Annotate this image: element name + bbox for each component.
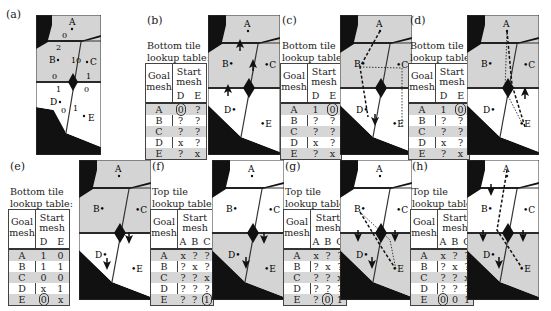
table-row: C ?? [409,126,469,137]
panel-label-d: (d) [410,14,426,27]
table-header: Goalmesh Startmesh DE [409,64,469,104]
svg-text:•E: •E [260,119,272,129]
svg-text:1: 1 [56,85,61,94]
table-row: A 10 [281,104,341,115]
panel-label-c: (c) [282,14,297,27]
tile-map-f: A B• •C D• •E [212,160,284,304]
table-row: A 10 [9,250,69,261]
svg-text:•E: •E [264,264,276,274]
table-row: D ??? [411,283,473,294]
svg-text:B•: B• [93,204,105,214]
table-caption-e: Bottom tilelookup table: [10,186,73,210]
mesh-label-A: A [68,17,76,27]
svg-text:•C: •C [396,205,408,215]
svg-text:•C: •C [268,205,280,215]
table-row: E ??1 [151,294,213,305]
table-row: E ?x [409,148,469,159]
svg-text:A: A [502,19,510,29]
lookup-table-h: Goalmesh Startmesh ABC A x?? B ?x? C ??x… [410,209,474,306]
tile-map-b: A B• •C D• •E [208,15,280,159]
table-row: B ?? [146,115,206,126]
table-caption-g: Top tilelookup table: [285,186,348,210]
svg-text:C: C [90,57,97,67]
table-row: A 10 [409,104,469,115]
svg-text:•C: •C [135,205,147,215]
svg-text:•E: •E [392,264,404,274]
table-row: D x? [281,137,341,148]
table-row: D ??? [151,283,213,294]
tile-map-d: A B• •C D• •E [467,15,539,159]
table-row: B ?x? [411,261,473,272]
table-row: B ?x? [284,261,346,272]
table-row: A x?? [411,250,473,261]
table-caption-h: Top tilelookup table: [412,186,475,210]
table-row: C ?? [281,126,341,137]
svg-text:1: 1 [73,104,78,113]
tile-map-a: A 0 2 B 10 C 0 1 1 0 D 0 1 E [36,15,101,155]
table-row: A x?? [284,250,346,261]
table-row: E 001 [411,294,473,305]
svg-text:•E: •E [519,264,531,274]
table-caption-b: Bottom tilelookup table: [147,40,210,64]
table-row: B ?? [281,115,341,126]
svg-text:A: A [375,19,383,29]
table-row: C ??x [151,272,213,283]
table-row: D x? [146,137,206,148]
svg-text:E: E [88,113,95,123]
tile-map-g: A B• •C D• •E [340,160,412,304]
tile-map-c: A B• •C D• •E [340,15,412,159]
table-header: Goalmesh Startmesh ABC [151,210,213,250]
table-row: B 11 [9,261,69,272]
svg-text:D•: D• [356,250,369,260]
svg-text:B•: B• [226,204,238,214]
svg-text:D•: D• [228,250,241,260]
panel-label-a: (a) [6,8,21,21]
table-header: Goalmesh Startmesh DE [9,210,69,250]
svg-text:A: A [247,164,255,174]
lookup-table-b: Goalmesh Startmesh DE A 0? B ?? C ?? D x… [145,63,207,160]
panel-label-g: (g) [285,160,301,173]
lookup-table-f: Goalmesh Startmesh ABC A x?? B ?x? C ??x… [150,209,214,306]
table-header: Goalmesh Startmesh DE [281,64,341,104]
table-header: Goalmesh Startmesh ABC [284,210,346,250]
svg-text:B•: B• [481,204,493,214]
table-row: D x? [409,137,469,148]
svg-text:0: 0 [62,31,67,40]
table-caption-c: Bottom tilelookup table: [282,40,345,64]
svg-text:A: A [114,164,122,174]
tile-map-h: A B• •C D• •E [467,160,539,304]
svg-text:D•: D• [224,105,237,115]
table-row: D ??? [284,283,346,294]
panel-label-f: (f) [152,160,165,173]
svg-text:D: D [50,97,57,107]
table-caption-d: Bottom tilelookup table: [410,40,473,64]
table-row: E ?01 [284,294,346,305]
table-row: E 0x [9,294,69,305]
lookup-table-c: Goalmesh Startmesh DE A 10 B ?? C ?? D x… [280,63,342,160]
svg-text:D•: D• [483,250,496,260]
svg-text:•C: •C [523,60,535,70]
table-row: E ?x [146,148,206,159]
table-row: C 00 [9,272,69,283]
lookup-table-d: Goalmesh Startmesh DE A 10 B ?? C ?? D x… [408,63,470,160]
svg-text:B: B [49,55,56,65]
tile-map-e: A B• •C D• •E [79,160,151,304]
svg-text:A: A [243,19,251,29]
svg-text:0: 0 [76,56,81,65]
lookup-table-e: Goalmesh Startmesh DE A 10 B 11 C 00 D x… [8,209,70,306]
table-header: Goalmesh Startmesh ABC [411,210,473,250]
svg-text:D•: D• [483,105,496,115]
table-row: A 0? [146,104,206,115]
svg-text:0: 0 [52,72,57,81]
table-header: Goalmesh Startmesh DE [146,64,206,104]
svg-text:•C: •C [264,60,276,70]
svg-text:B•: B• [481,59,493,69]
table-row: B ?x? [151,261,213,272]
svg-text:•E: •E [131,264,143,274]
svg-text:D•: D• [95,250,108,260]
table-row: C ??x [411,272,473,283]
svg-text:•E: •E [392,119,404,129]
svg-text:1: 1 [86,72,91,81]
svg-text:A: A [375,164,383,174]
panel-label-b: (b) [147,14,163,27]
